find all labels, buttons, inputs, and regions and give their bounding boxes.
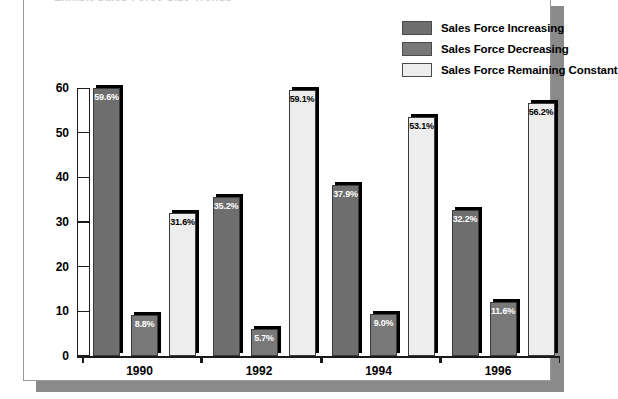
bar-value-label: 9.0% — [371, 318, 396, 328]
chart-legend: Sales Force IncreasingSales Force Decrea… — [402, 18, 618, 81]
x-axis-group-tick — [441, 356, 443, 363]
x-axis-category-label: 1992 — [246, 364, 273, 378]
x-axis-group-tick — [202, 356, 204, 363]
clipped-title-fragment: Exhibit Sales Force Size Trends — [54, 0, 314, 3]
x-axis-category-label: 1996 — [485, 364, 512, 378]
legend-item-label: Sales Force Remaining Constant — [441, 64, 618, 76]
y-axis-tick — [77, 177, 90, 179]
chart-panel: Exhibit Sales Force Size Trends Sales Fo… — [23, 0, 551, 381]
bar[interactable]: 9.0% — [370, 314, 397, 356]
bar[interactable]: 59.6% — [93, 88, 120, 356]
plot-area: 010203040506059.6%8.8%31.6%199035.2%5.7%… — [81, 88, 559, 356]
y-axis-tick-label: 10 — [56, 304, 69, 318]
bar-value-label: 32.2% — [453, 214, 478, 224]
bar-value-label: 11.6% — [491, 306, 516, 316]
y-axis-tick-label: 0 — [62, 349, 69, 363]
y-axis-tick — [77, 132, 90, 134]
bar-value-label: 59.6% — [94, 92, 119, 102]
x-axis-group-tick — [82, 356, 84, 363]
legend-item[interactable]: Sales Force Remaining Constant — [402, 60, 618, 79]
bar[interactable]: 35.2% — [213, 197, 240, 356]
x-axis-category-label: 1990 — [126, 364, 153, 378]
bar[interactable]: 53.1% — [408, 117, 435, 356]
bar[interactable]: 31.6% — [169, 213, 196, 356]
bar[interactable]: 5.7% — [251, 329, 278, 356]
x-axis-category-label: 1994 — [365, 364, 392, 378]
y-axis-tick-label: 30 — [56, 215, 69, 229]
legend-item[interactable]: Sales Force Increasing — [402, 18, 618, 37]
bar[interactable]: 8.8% — [131, 315, 158, 356]
bar[interactable]: 59.1% — [289, 90, 316, 356]
legend-swatch-icon — [402, 21, 432, 35]
legend-item-label: Sales Force Decreasing — [441, 43, 569, 55]
y-axis-tick — [77, 311, 90, 313]
y-axis-tick — [77, 266, 90, 268]
bar-value-label: 8.8% — [132, 319, 157, 329]
bar-value-label: 31.6% — [170, 217, 195, 227]
bar[interactable]: 56.2% — [528, 103, 555, 356]
legend-item[interactable]: Sales Force Decreasing — [402, 39, 618, 58]
bar[interactable]: 11.6% — [490, 302, 517, 356]
bar-value-label: 56.2% — [529, 107, 554, 117]
y-axis-tick — [77, 221, 90, 223]
y-axis-tick-label: 20 — [56, 260, 69, 274]
legend-swatch-icon — [402, 63, 432, 77]
bar-value-label: 37.9% — [333, 189, 358, 199]
y-axis-tick-label: 60 — [56, 81, 69, 95]
bar-value-label: 35.2% — [214, 201, 239, 211]
bar-value-label: 5.7% — [252, 333, 277, 343]
bar[interactable]: 37.9% — [332, 185, 359, 356]
bar[interactable]: 32.2% — [452, 210, 479, 356]
x-axis-group-tick — [321, 356, 323, 363]
y-axis-tick-label: 40 — [56, 170, 69, 184]
y-axis-tick-label: 50 — [56, 126, 69, 140]
bar-value-label: 59.1% — [290, 94, 315, 104]
bar-value-label: 53.1% — [409, 121, 434, 131]
x-axis-baseline — [77, 356, 559, 358]
legend-item-label: Sales Force Increasing — [441, 22, 564, 34]
x-axis-group-tick — [559, 356, 561, 363]
legend-swatch-icon — [402, 42, 432, 56]
